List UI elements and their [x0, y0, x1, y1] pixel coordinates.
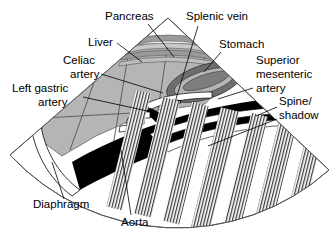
label-left-gastric-artery: Left gastric artery — [12, 82, 68, 108]
svg-text:Left gastric: Left gastric — [12, 82, 68, 94]
ultrasound-sector-diagram: Pancreas Splenic vein Liver Stomach Celi… — [0, 0, 334, 239]
svg-text:artery: artery — [70, 68, 100, 80]
anatomy-figure: Pancreas Splenic vein Liver Stomach Celi… — [0, 0, 334, 239]
label-liver: Liver — [88, 36, 113, 48]
label-stomach: Stomach — [219, 38, 264, 50]
label-splenic-vein: Splenic vein — [186, 10, 248, 22]
label-superior-mesenteric-artery: Superior mesenteric artery — [256, 54, 312, 94]
label-aorta: Aorta — [121, 216, 149, 228]
svg-text:Superior: Superior — [256, 54, 300, 66]
svg-text:artery: artery — [38, 96, 68, 108]
svg-text:Spine/: Spine/ — [279, 95, 312, 107]
label-pancreas: Pancreas — [105, 10, 154, 22]
label-celiac-artery: Celiac artery — [63, 54, 100, 80]
svg-text:artery: artery — [256, 82, 286, 94]
label-diaphragm: Diaphragm — [33, 198, 89, 210]
svg-text:mesenteric: mesenteric — [256, 68, 312, 80]
label-spine-shadow: Spine/ shadow — [279, 95, 319, 121]
svg-text:Celiac: Celiac — [63, 54, 95, 66]
svg-text:shadow: shadow — [279, 109, 319, 121]
